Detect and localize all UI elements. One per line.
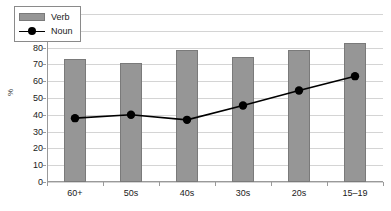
y-axis-tick-label: 50 [19, 94, 43, 103]
y-axis-tick-mark [43, 182, 46, 183]
y-axis-tick-label: 20 [19, 144, 43, 153]
y-axis-tick-mark [43, 148, 46, 149]
x-axis-category-label: 30s [236, 188, 251, 198]
line-path [75, 76, 355, 120]
x-axis-category-label: 60+ [67, 188, 82, 198]
line-marker [127, 111, 135, 119]
y-axis-tick-label: 60 [19, 77, 43, 86]
x-axis-tick-mark [103, 182, 104, 186]
line-marker [183, 116, 191, 124]
y-axis-tick-label: 40 [19, 110, 43, 119]
x-axis-tick-mark [383, 182, 384, 186]
x-axis-category-labels: 60+50s40s30s20s15–19 [47, 188, 383, 208]
line-marker [295, 86, 303, 94]
x-axis-category-label: 40s [180, 188, 195, 198]
x-axis-tick-mark [159, 182, 160, 186]
y-axis-tick-mark [43, 115, 46, 116]
y-axis-tick-mark [43, 165, 46, 166]
chart-container: % 1009080706050403020100 60+50s40s30s20s… [0, 0, 391, 211]
legend-label-noun: Noun [51, 27, 73, 36]
line-series-noun [47, 14, 383, 182]
y-axis-title: % [6, 89, 15, 96]
y-axis-tick-mark [43, 64, 46, 65]
y-axis-tick-label: 10 [19, 161, 43, 170]
y-axis-tick-mark [43, 48, 46, 49]
y-axis-tick-mark [43, 98, 46, 99]
x-axis-category-label: 15–19 [342, 188, 367, 198]
y-axis-tick-label: 0 [19, 178, 43, 187]
y-axis-tick-label: 80 [19, 43, 43, 52]
legend-line-marker-icon [19, 27, 45, 35]
y-axis-tick-mark [43, 132, 46, 133]
legend-bar-swatch-icon [19, 13, 45, 21]
line-marker [71, 114, 79, 122]
y-axis-tick-mark [43, 81, 46, 82]
x-axis-tick-mark [327, 182, 328, 186]
x-axis-tick-mark [215, 182, 216, 186]
legend-item-noun: Noun [19, 24, 73, 38]
x-axis-tick-mark [47, 182, 48, 186]
line-marker [239, 101, 247, 109]
x-axis-category-label: 20s [292, 188, 307, 198]
chart-legend: Verb Noun [14, 6, 81, 42]
x-axis-category-label: 50s [124, 188, 139, 198]
line-marker [351, 72, 359, 80]
y-axis-tick-label: 30 [19, 127, 43, 136]
y-axis-tick-label: 70 [19, 60, 43, 69]
legend-label-verb: Verb [51, 13, 70, 22]
legend-item-verb: Verb [19, 10, 73, 24]
plot-area [47, 14, 383, 182]
x-axis-tick-mark [271, 182, 272, 186]
